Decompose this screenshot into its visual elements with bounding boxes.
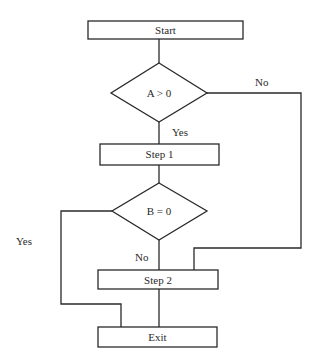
- decision-b-label: B = 0: [119, 205, 199, 217]
- connector-b-yes: [61, 211, 121, 327]
- flowchart-canvas: [0, 0, 318, 363]
- step1-label: Step 1: [100, 148, 219, 160]
- decision-a-label: A > 0: [119, 87, 199, 99]
- connector-a-no: [194, 93, 301, 270]
- step2-label: Step 2: [98, 274, 218, 286]
- edge-label-a-no: No: [255, 76, 268, 88]
- exit-label: Exit: [98, 331, 217, 343]
- edge-label-b-no: No: [135, 251, 148, 263]
- start-label: Start: [88, 24, 243, 36]
- edge-label-b-yes: Yes: [16, 235, 32, 247]
- edge-label-a-yes: Yes: [172, 126, 188, 138]
